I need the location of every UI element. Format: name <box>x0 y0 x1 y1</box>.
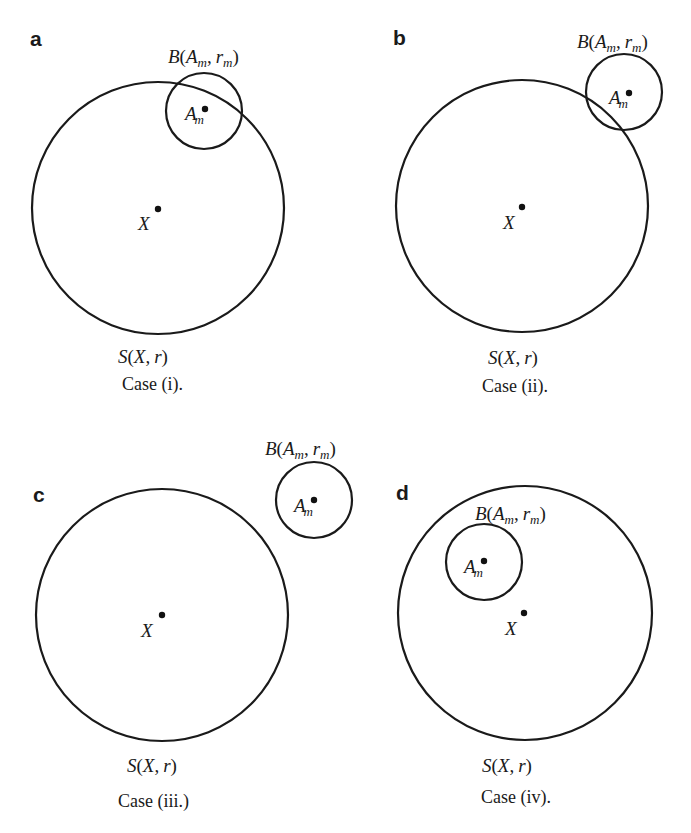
panel-b: b X Am B(Am,rm) S(X,r) Case (ii). <box>393 26 662 397</box>
label-X: X <box>504 618 518 639</box>
panel-a: a X Am B(Am,rm) S(X,r) Case (i). <box>30 27 284 395</box>
label-S-X-r: S(X,r) <box>482 755 532 777</box>
figure-canvas: a X Am B(Am,rm) S(X,r) Case (i). b X Am … <box>0 0 691 833</box>
label-Am: Am <box>462 556 483 580</box>
panel-letter-d: d <box>396 481 409 504</box>
label-B-Am-rm: B(Am,rm) <box>265 438 336 462</box>
label-S-X-r: S(X,r) <box>127 755 177 777</box>
center-dot-Am <box>481 558 487 564</box>
center-dot-X <box>159 612 165 618</box>
panel-letter-a: a <box>30 27 42 50</box>
center-dot-X <box>155 206 161 212</box>
small-circle-B <box>586 54 662 130</box>
label-X: X <box>502 212 516 233</box>
caption-a: Case (i). <box>122 374 183 395</box>
caption-c: Case (iii.) <box>118 791 189 812</box>
center-dot-X <box>519 204 525 210</box>
panel-letter-c: c <box>33 483 45 506</box>
panel-c: c X Am B(Am,rm) S(X,r) Case (iii.) <box>33 438 352 812</box>
center-dot-X <box>521 610 527 616</box>
label-Am: Am <box>292 495 313 519</box>
caption-d: Case (iv). <box>481 787 551 808</box>
label-B-Am-rm: B(Am,rm) <box>475 503 546 527</box>
label-S-X-r: S(X,r) <box>488 347 538 369</box>
label-B-Am-rm: B(Am,rm) <box>577 31 648 55</box>
panel-letter-b: b <box>393 26 406 49</box>
label-S-X-r: S(X,r) <box>118 346 168 368</box>
label-B-Am-rm: B(Am,rm) <box>168 46 239 70</box>
center-dot-Am <box>311 497 317 503</box>
label-Am: Am <box>607 87 628 111</box>
label-X: X <box>137 213 151 234</box>
panel-d: d X Am B(Am,rm) S(X,r) Case (iv). <box>396 481 652 808</box>
label-X: X <box>140 620 154 641</box>
label-Am: Am <box>183 103 204 127</box>
caption-b: Case (ii). <box>482 376 548 397</box>
